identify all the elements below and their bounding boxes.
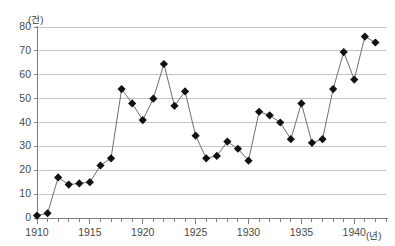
x-tick-label: 1920	[123, 227, 163, 238]
data-point	[213, 152, 221, 160]
x-tick-label: 1910	[17, 227, 57, 238]
y-tick-label: 80	[9, 21, 31, 32]
data-point	[266, 111, 274, 119]
plot-area	[0, 0, 395, 246]
y-tick-label: 60	[9, 69, 31, 80]
data-point	[318, 135, 326, 143]
data-point	[181, 87, 189, 95]
data-point	[128, 99, 136, 107]
x-tick-label: 1915	[70, 227, 110, 238]
y-tick-label: 40	[9, 117, 31, 128]
y-tick-label: 20	[9, 164, 31, 175]
data-point	[276, 118, 284, 126]
data-point	[107, 154, 115, 162]
y-tick-label: 50	[9, 93, 31, 104]
data-point	[86, 178, 94, 186]
y-tick-label: 0	[9, 212, 31, 223]
data-point	[118, 85, 126, 93]
data-point	[371, 38, 379, 46]
y-tick-label: 70	[9, 45, 31, 56]
y-tick-label: 10	[9, 188, 31, 199]
data-point	[350, 75, 358, 83]
x-axis-ticks	[37, 218, 386, 224]
data-point	[255, 108, 263, 116]
data-point	[65, 180, 73, 188]
data-point	[75, 179, 83, 187]
data-point	[96, 161, 104, 169]
data-point	[54, 173, 62, 181]
data-point	[170, 102, 178, 110]
line-chart: (건) (년) 01020304050607080 19101915192019…	[0, 0, 395, 246]
data-point	[297, 99, 305, 107]
data-point	[340, 48, 348, 56]
data-point	[192, 132, 200, 140]
data-point	[149, 95, 157, 103]
data-line	[37, 37, 375, 216]
data-point	[202, 154, 210, 162]
x-tick-label: 1935	[281, 227, 321, 238]
x-tick-label: 1925	[176, 227, 216, 238]
data-point	[287, 135, 295, 143]
y-tick-label: 30	[9, 140, 31, 151]
data-point	[160, 60, 168, 68]
data-point	[308, 139, 316, 147]
data-point	[361, 32, 369, 40]
data-point	[329, 85, 337, 93]
gridlines	[37, 27, 386, 194]
data-point	[43, 209, 51, 217]
x-tick-label: 1930	[229, 227, 269, 238]
data-point	[223, 138, 231, 146]
x-tick-label: 1940	[334, 227, 374, 238]
data-markers	[33, 32, 380, 219]
